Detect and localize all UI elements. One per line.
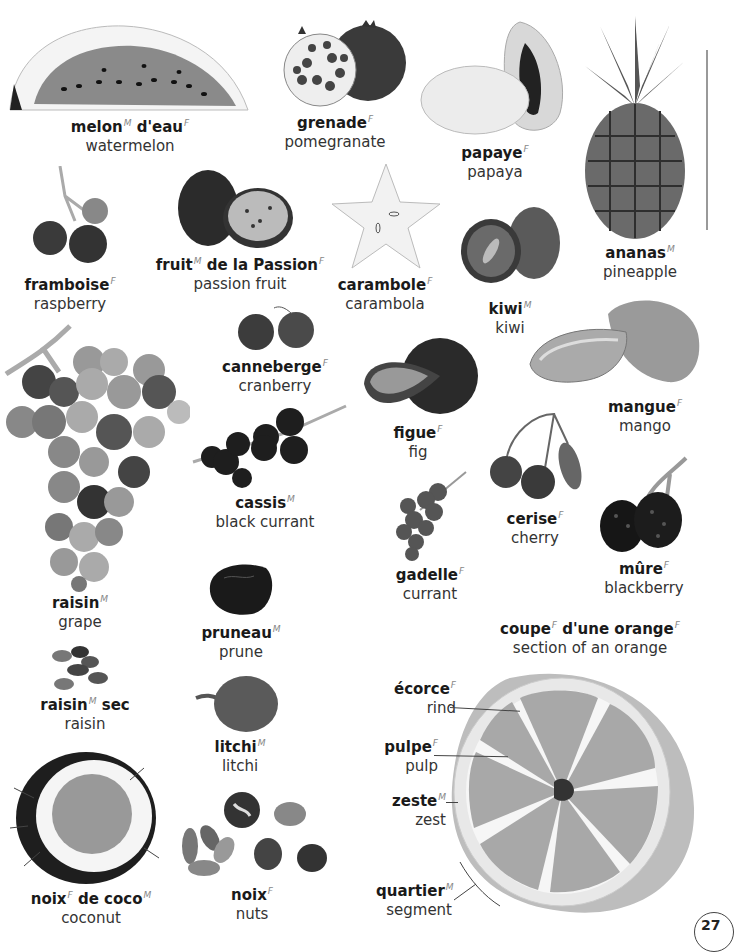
mango-label: mangueF mango (600, 398, 690, 436)
papaya-illustration (420, 18, 570, 142)
nuts-illustration (180, 790, 330, 884)
cherry-label: ceriseF cherry (500, 510, 570, 548)
cherry-illustration (486, 406, 582, 506)
carambola-label: caramboleF carambola (330, 276, 440, 314)
prune-illustration (204, 558, 276, 622)
nuts-label: noixF nuts (212, 886, 292, 924)
passion-fruit-illustration (175, 166, 295, 260)
pomegranate-illustration (272, 18, 408, 112)
grape-illustration (4, 322, 190, 596)
blackberry-illustration (600, 454, 690, 562)
orange-part-segment-label: quartierM segment (376, 882, 452, 920)
watermelon-label: melonM d'eauF watermelon (40, 118, 220, 156)
mango-illustration (528, 294, 704, 394)
orange-section-title: coupeF d'une orangeF section of an orang… (470, 620, 710, 658)
black-currant-illustration (188, 402, 348, 496)
raisin-label: raisinM sec raisin (30, 696, 140, 734)
carambola-illustration (330, 162, 442, 276)
litchi-label: litchiM litchi (200, 738, 280, 776)
pomegranate-label: grenadeF pomegranate (280, 114, 390, 152)
grape-label: raisinM grape (40, 594, 120, 632)
orange-part-zest-label: zesteM zest (376, 792, 446, 830)
zest-leader-line (446, 802, 458, 803)
fig-illustration (362, 334, 480, 422)
page-edge-line (706, 50, 708, 230)
raspberry-illustration (30, 166, 115, 270)
coconut-label: noixF de cocoM coconut (16, 890, 166, 928)
pineapple-illustration (580, 16, 690, 245)
page-number-badge: 27 (694, 912, 734, 952)
papaya-label: papayeF papaya (450, 144, 540, 182)
litchi-illustration (194, 674, 280, 738)
watermelon-illustration (4, 14, 250, 118)
currant-illustration (390, 470, 470, 566)
kiwi-illustration (456, 206, 562, 290)
blackberry-label: mûreF blackberry (596, 560, 692, 598)
raspberry-label: framboiseF raspberry (20, 276, 120, 314)
orange-part-pulp-label: pulpeF pulp (376, 738, 438, 776)
pineapple-label: ananasM pineapple (590, 244, 690, 282)
fig-label: figueF fig (388, 424, 448, 462)
currant-label: gadelleF currant (390, 566, 470, 604)
black-currant-label: cassisM black currant (210, 494, 320, 532)
cranberry-label: cannebergeF cranberry (220, 358, 330, 396)
cranberry-illustration (234, 306, 318, 356)
passion-fruit-label: fruitM de la PassionF passion fruit (150, 256, 330, 294)
orange-part-rind-label: écorceF rind (376, 680, 456, 718)
coconut-illustration (4, 748, 164, 892)
raisin-illustration (50, 644, 114, 698)
segment-leader-arc (450, 860, 510, 910)
prune-label: pruneauM prune (196, 624, 286, 662)
